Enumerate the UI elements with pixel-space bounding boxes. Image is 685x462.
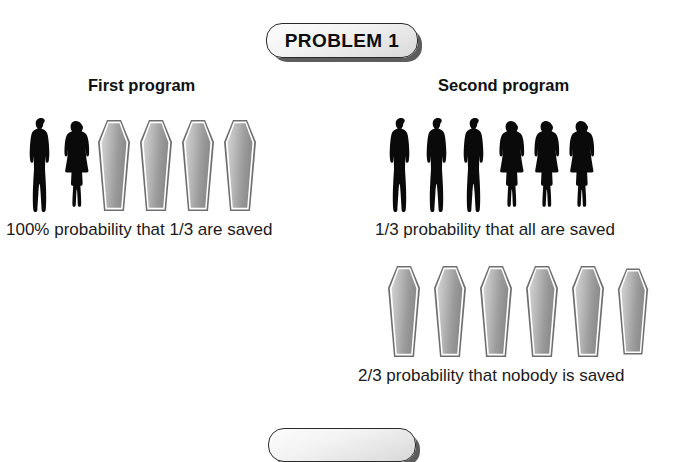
coffin-icon [432,262,468,362]
problem-badge-bottom [268,428,416,462]
person-female-icon [497,119,525,214]
coffin-icon [478,262,514,362]
coffin-icon [616,262,650,362]
second-program-caption-nobody-saved: 2/3 probability that nobody is saved [358,366,625,386]
problem-badge-top: PROBLEM 1 [266,23,418,58]
coffin-icon [138,118,174,214]
coffin-icon [180,118,216,214]
coffin-icon [524,262,560,362]
second-program-coffin-row [386,258,650,362]
second-program-heading: Second program [438,76,569,95]
person-female-icon [62,119,90,214]
coffin-icon [96,118,132,214]
person-male-icon [423,116,453,214]
first-program-icon-row [26,114,258,214]
person-male-icon [386,116,416,214]
person-male-icon [26,116,56,214]
problem-badge-top-label: PROBLEM 1 [285,30,399,52]
second-program-caption-saved: 1/3 probability that all are saved [375,220,615,240]
first-program-caption: 100% probability that 1/3 are saved [6,220,273,240]
person-female-icon [532,119,560,214]
first-program-heading: First program [88,76,195,95]
coffin-icon [222,118,258,214]
person-male-icon [460,116,490,214]
coffin-icon [570,262,606,362]
coffin-icon [386,262,422,362]
person-female-icon [567,119,595,214]
second-program-people-row [386,114,595,214]
